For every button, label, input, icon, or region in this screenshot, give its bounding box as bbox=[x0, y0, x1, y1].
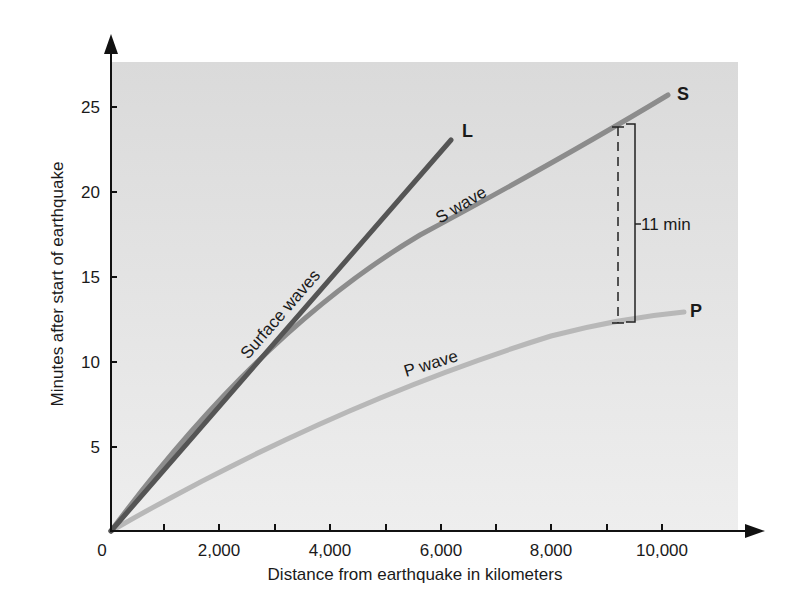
x-tick-label: 8,000 bbox=[530, 541, 573, 560]
interval-label: 11 min bbox=[641, 215, 691, 234]
x-tick-label: 0 bbox=[97, 541, 106, 560]
x-axis-title: Distance from earthquake in kilometers bbox=[268, 565, 563, 584]
plot-background bbox=[111, 62, 738, 531]
y-tick-label: 10 bbox=[81, 353, 100, 372]
y-tick-label: 20 bbox=[81, 183, 100, 202]
end-label-s: S bbox=[677, 84, 689, 104]
y-tick-label: 5 bbox=[91, 438, 100, 457]
x-tick-label: 4,000 bbox=[309, 541, 352, 560]
end-label-p: P bbox=[690, 301, 702, 321]
end-label-l: L bbox=[462, 121, 473, 141]
y-tick-label: 15 bbox=[81, 268, 100, 287]
x-tick-label: 2,000 bbox=[198, 541, 241, 560]
travel-time-chart: 11 min Surface waves S wave P wave L S P… bbox=[0, 0, 798, 609]
y-axis-title: Minutes after start of earthquake bbox=[48, 162, 67, 407]
x-tick-label: 6,000 bbox=[420, 541, 463, 560]
y-tick-label: 25 bbox=[81, 98, 100, 117]
x-tick-label: 10,000 bbox=[636, 541, 688, 560]
